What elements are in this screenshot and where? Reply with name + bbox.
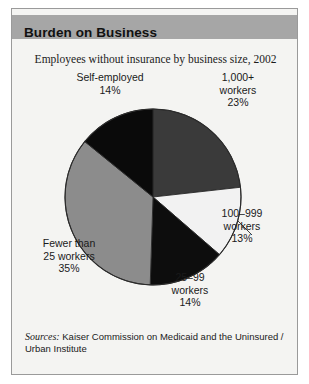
source-note: Sources: Kaiser Commission on Medicaid a… <box>25 331 287 355</box>
pie-label-self-employed: Self-employed 14% <box>52 71 168 96</box>
pie-chart-svg <box>12 9 298 375</box>
source-text: Kaiser Commission on Medicaid and the Un… <box>25 331 284 354</box>
pie-chart <box>12 9 298 375</box>
pie-label-100-999-workers: 100–999 workers 13% <box>196 207 288 245</box>
pie-slice <box>153 109 240 197</box>
chart-figure: Burden on Business Employees without ins… <box>11 8 298 375</box>
pie-label-fewer-than-25-workers: Fewer than 25 workers 35% <box>16 237 122 275</box>
source-label: Sources: <box>25 331 60 342</box>
pie-label-25-99-workers: 25–99 workers 14% <box>142 271 238 309</box>
pie-label-1000-plus-workers: 1,000+ workers 23% <box>190 71 286 109</box>
